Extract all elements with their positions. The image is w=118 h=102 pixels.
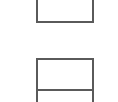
- top-box: [36, 0, 94, 23]
- section-divider: [38, 89, 92, 91]
- bottom-box: [36, 58, 94, 102]
